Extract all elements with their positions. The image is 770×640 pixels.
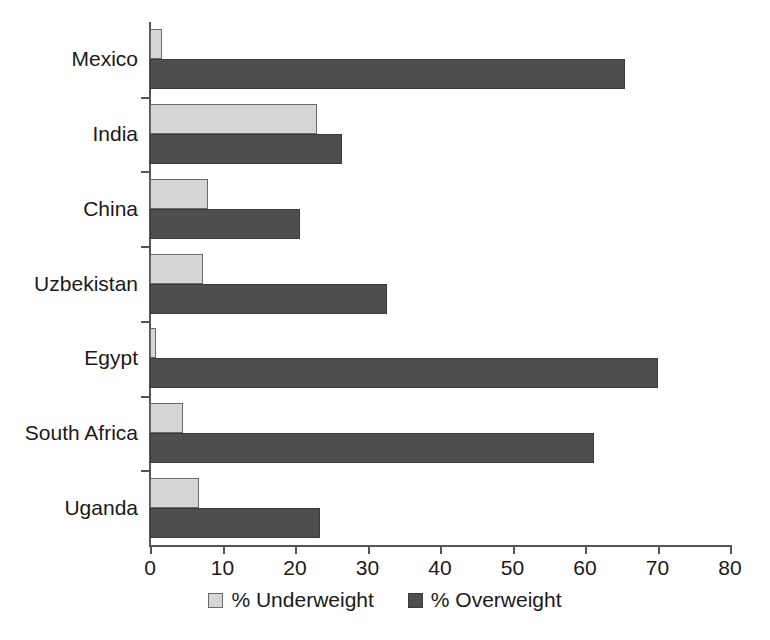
chart-legend: % Underweight % Overweight — [0, 588, 770, 612]
x-axis-tick-label: 40 — [428, 556, 451, 580]
y-axis-tick — [141, 97, 150, 99]
y-axis-label-china: China — [0, 197, 138, 221]
bar-overweight — [150, 508, 320, 538]
bar-chart: 01020304050607080 MexicoIndiaChinaUzbeki… — [0, 0, 770, 640]
y-axis-tick — [141, 171, 150, 173]
x-axis-tick-label: 60 — [573, 556, 596, 580]
y-axis-tick — [141, 470, 150, 472]
x-axis-tick — [658, 545, 660, 554]
x-axis-tick-label: 20 — [283, 556, 306, 580]
y-axis-label-uzbekistan: Uzbekistan — [0, 272, 138, 296]
bar-underweight — [150, 254, 203, 284]
x-axis-tick — [368, 545, 370, 554]
x-axis-tick — [440, 545, 442, 554]
x-axis-tick — [730, 545, 732, 554]
legend-item-overweight[interactable]: % Overweight — [408, 588, 562, 612]
bar-underweight — [150, 104, 317, 134]
bar-overweight — [150, 59, 625, 89]
x-axis-tick — [150, 545, 152, 554]
bar-overweight — [150, 433, 594, 463]
bar-underweight — [150, 403, 183, 433]
x-axis-tick-label: 10 — [211, 556, 234, 580]
legend-label-underweight: % Underweight — [231, 588, 373, 612]
legend-label-overweight: % Overweight — [431, 588, 562, 612]
bar-overweight — [150, 284, 387, 314]
bar-overweight — [150, 358, 658, 388]
y-axis-label-south-africa: South Africa — [0, 421, 138, 445]
bar-underweight — [150, 179, 208, 209]
x-axis-tick-label: 50 — [501, 556, 524, 580]
x-axis-tick — [295, 545, 297, 554]
light-gray-swatch-icon — [208, 593, 223, 608]
bar-overweight — [150, 209, 300, 239]
bar-underweight — [150, 478, 199, 508]
y-axis-tick — [141, 246, 150, 248]
x-axis-tick-label: 70 — [646, 556, 669, 580]
bar-underweight — [150, 29, 162, 59]
y-axis-label-uganda: Uganda — [0, 496, 138, 520]
y-axis-tick — [141, 321, 150, 323]
y-axis-label-egypt: Egypt — [0, 346, 138, 370]
x-axis-tick-label: 0 — [144, 556, 156, 580]
plot-area — [150, 22, 730, 545]
x-axis-tick-label: 30 — [356, 556, 379, 580]
legend-item-underweight[interactable]: % Underweight — [208, 588, 373, 612]
bar-overweight — [150, 134, 342, 164]
y-axis-tick — [141, 396, 150, 398]
y-axis-label-india: India — [0, 122, 138, 146]
x-axis-tick — [223, 545, 225, 554]
x-axis-tick-label: 80 — [718, 556, 741, 580]
dark-gray-swatch-icon — [408, 593, 423, 608]
bar-underweight — [150, 328, 156, 358]
x-axis-tick — [513, 545, 515, 554]
y-axis-label-mexico: Mexico — [0, 47, 138, 71]
x-axis-tick — [585, 545, 587, 554]
